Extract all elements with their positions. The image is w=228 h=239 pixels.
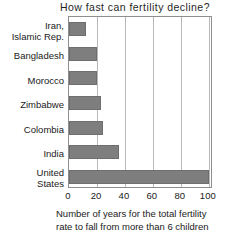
bar-row [69, 140, 211, 165]
bar-row [69, 42, 211, 67]
x-axis-labels: 0 20 40 60 80 100 [0, 190, 228, 204]
y-label-united-states-line2: States [0, 179, 64, 190]
bar-row [69, 164, 211, 189]
x-tick-label-100: 100 [196, 190, 220, 202]
bar-iran-islamic-rep[interactable] [69, 22, 86, 36]
bars-group [69, 17, 211, 187]
y-label-iran-line1: Iran, [0, 21, 64, 32]
plot-area [68, 16, 212, 188]
chart-caption: Number of years for the total fertility … [56, 208, 228, 233]
fertility-decline-bar-chart: How fast can fertility decline? [0, 0, 228, 239]
bar-bangladesh[interactable] [69, 47, 97, 61]
x-tick-label-20: 20 [84, 190, 108, 202]
bar-row [69, 115, 211, 140]
x-tick-label-60: 60 [140, 190, 164, 202]
bar-row [69, 17, 211, 42]
bar-row [69, 91, 211, 116]
x-tick-label-80: 80 [168, 190, 192, 202]
bar-row [69, 66, 211, 91]
y-label-india: India [0, 149, 64, 160]
caption-line-1: Number of years for the total fertility [56, 208, 228, 221]
y-label-united-states-line1: United [0, 168, 64, 179]
y-label-morocco: Morocco [0, 76, 64, 87]
caption-line-2: rate to fall from more than 6 children [56, 221, 228, 234]
y-label-bangladesh: Bangladesh [0, 51, 64, 62]
y-label-colombia: Colombia [0, 125, 64, 136]
bar-zimbabwe[interactable] [69, 96, 101, 110]
x-tick-label-40: 40 [112, 190, 136, 202]
chart-title: How fast can fertility decline? [60, 0, 228, 16]
y-label-iran-line2: Islamic Rep. [0, 32, 64, 43]
bar-india[interactable] [69, 145, 119, 159]
y-label-zimbabwe: Zimbabwe [0, 100, 64, 111]
y-axis-labels: Iran, Islamic Rep. Bangladesh Morocco Zi… [0, 16, 64, 188]
x-tick-label-0: 0 [56, 190, 80, 202]
bar-united-states[interactable] [69, 170, 209, 184]
bar-morocco[interactable] [69, 71, 97, 85]
bar-colombia[interactable] [69, 121, 103, 135]
